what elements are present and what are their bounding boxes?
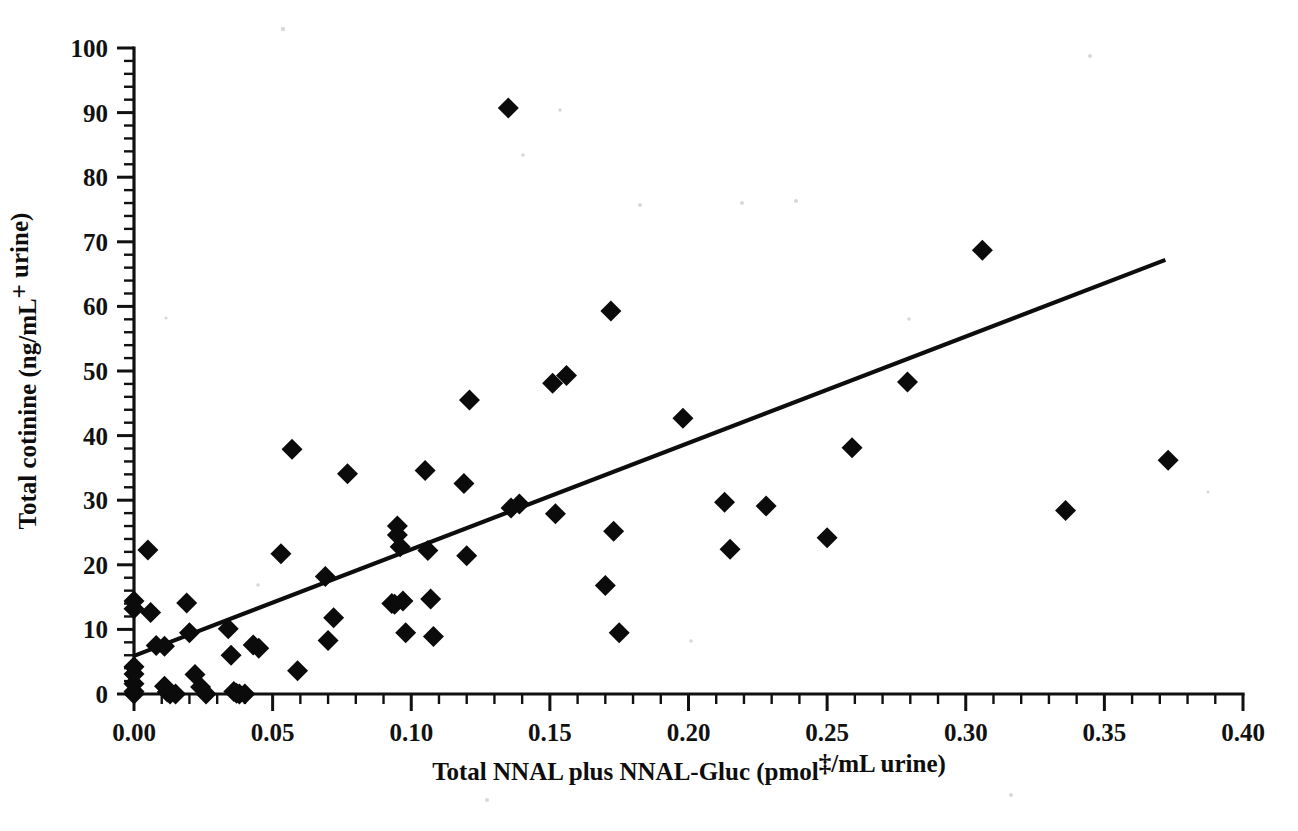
data-point-marker — [176, 592, 197, 613]
data-point-marker — [603, 521, 624, 542]
data-point-marker — [714, 492, 735, 513]
y-axis-title: Total cotinine (ng/mL+ urine) — [6, 213, 42, 530]
data-point-marker — [323, 607, 344, 628]
y-tick-label: 20 — [83, 552, 108, 579]
x-tick-label: 0.05 — [251, 719, 295, 746]
y-tick-label: 100 — [71, 35, 109, 62]
y-tick-label: 50 — [83, 358, 108, 385]
data-point-markers — [124, 98, 1179, 705]
data-point-marker — [456, 545, 477, 566]
data-point-marker — [842, 437, 863, 458]
data-point-marker — [545, 503, 566, 524]
data-point-marker — [395, 622, 416, 643]
data-point-marker — [672, 408, 693, 429]
y-tick-label: 70 — [83, 229, 108, 256]
data-point-marker — [453, 473, 474, 494]
data-point-marker — [897, 371, 918, 392]
data-point-marker — [337, 463, 358, 484]
data-point-marker — [140, 602, 161, 623]
data-point-marker — [287, 660, 308, 681]
y-tick-label: 60 — [83, 293, 108, 320]
y-tick-label: 10 — [83, 616, 108, 643]
x-tick-label: 0.20 — [667, 719, 711, 746]
data-point-marker — [609, 622, 630, 643]
data-point-marker — [817, 527, 838, 548]
data-point-marker — [972, 240, 993, 261]
x-axis-title: Total NNAL plus NNAL-Gluc (pmol‡/mL urin… — [432, 750, 946, 786]
x-tick-label: 0.40 — [1221, 719, 1265, 746]
axis-titles: Total NNAL plus NNAL-Gluc (pmol‡/mL urin… — [6, 213, 946, 786]
data-point-marker — [270, 543, 291, 564]
x-tick-label: 0.10 — [389, 719, 433, 746]
plot-canvas: 0102030405060708090100 0.000.050.100.150… — [0, 0, 1298, 831]
y-tick-label: 30 — [83, 487, 108, 514]
x-tick-label: 0.00 — [112, 719, 156, 746]
data-point-marker — [498, 98, 519, 119]
y-tick-label: 40 — [83, 423, 108, 450]
scatter-plot-figure: 0102030405060708090100 0.000.050.100.150… — [0, 0, 1298, 831]
data-point-marker — [137, 539, 158, 560]
data-point-marker — [459, 390, 480, 411]
y-tick-label: 90 — [83, 100, 108, 127]
y-tick-label: 0 — [96, 681, 109, 708]
regression-trend-line — [134, 260, 1165, 656]
x-tick-label: 0.25 — [805, 719, 849, 746]
data-point-marker — [417, 540, 438, 561]
data-point-marker — [600, 300, 621, 321]
data-point-marker — [415, 460, 436, 481]
data-point-marker — [423, 626, 444, 647]
data-point-marker — [179, 622, 200, 643]
x-axis-ticks — [134, 694, 1243, 711]
x-tick-label: 0.15 — [528, 719, 572, 746]
data-point-marker — [282, 439, 303, 460]
data-point-marker — [756, 496, 777, 517]
data-point-marker — [1055, 500, 1076, 521]
data-point-marker — [595, 575, 616, 596]
x-tick-label: 0.30 — [944, 719, 988, 746]
y-tick-label: 80 — [83, 164, 108, 191]
y-axis-tick-labels: 0102030405060708090100 — [71, 35, 109, 708]
data-point-marker — [318, 630, 339, 651]
x-axis-tick-labels: 0.000.050.100.150.200.250.300.350.40 — [112, 719, 1265, 746]
data-point-marker — [420, 589, 441, 610]
x-tick-label: 0.35 — [1083, 719, 1127, 746]
data-point-marker — [221, 645, 242, 666]
data-point-marker — [720, 539, 741, 560]
axes — [134, 48, 1243, 694]
data-point-marker — [1158, 450, 1179, 471]
